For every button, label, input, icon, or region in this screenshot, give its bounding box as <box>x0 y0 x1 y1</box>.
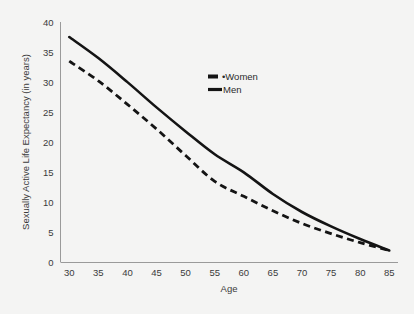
x-tick-label: 55 <box>209 267 220 278</box>
x-tick-label: 65 <box>268 267 279 278</box>
x-tick-label: 60 <box>239 267 250 278</box>
x-tick-label: 40 <box>122 267 133 278</box>
y-tick-label: 35 <box>43 47 54 58</box>
x-tick-label: 80 <box>355 267 366 278</box>
x-tick-label: 50 <box>180 267 191 278</box>
y-tick-label: 25 <box>43 107 54 118</box>
chart-container: 0510152025303540 30354045505560657075808… <box>0 0 414 314</box>
x-tick-label: 85 <box>384 267 395 278</box>
x-tick-label: 35 <box>93 267 104 278</box>
y-tick-label: 30 <box>43 77 54 88</box>
y-tick-label: 20 <box>43 137 54 148</box>
x-axis-title: Age <box>221 283 238 294</box>
x-tick-label: 30 <box>64 267 75 278</box>
x-tick-label: 45 <box>151 267 162 278</box>
legend-label-men: Men <box>223 84 241 95</box>
y-tick-label: 15 <box>43 167 54 178</box>
chart-background <box>0 0 414 314</box>
x-tick-label: 75 <box>326 267 337 278</box>
y-tick-label: 40 <box>43 17 54 28</box>
y-tick-label: 10 <box>43 197 54 208</box>
x-tick-label: 70 <box>297 267 308 278</box>
y-tick-label: 5 <box>48 227 53 238</box>
y-tick-label: 0 <box>48 257 53 268</box>
y-axis-title: Sexually Active Life Expectancy (in year… <box>20 54 31 230</box>
line-chart: 0510152025303540 30354045505560657075808… <box>0 0 414 314</box>
legend-label-women: •Women <box>222 71 258 82</box>
